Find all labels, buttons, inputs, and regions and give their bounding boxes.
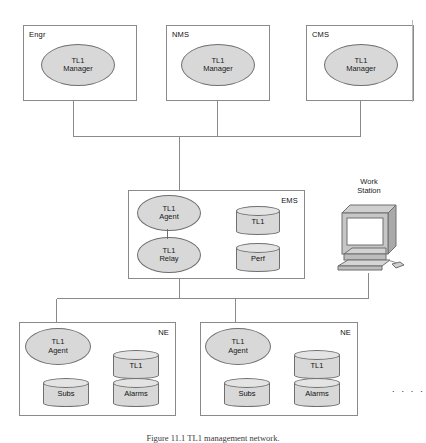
datastore-tl1-ne-right[interactable]: TL1	[294, 350, 340, 379]
node-label-line2: Manager	[346, 65, 376, 73]
datastore-subs-ne-left[interactable]: Subs	[43, 378, 89, 407]
node-label-line2: Agent	[159, 213, 179, 221]
workstation-label-line2: Station	[357, 186, 380, 195]
ne-box-title: NE	[340, 328, 351, 337]
cylinder-top	[236, 206, 280, 216]
cylinder-top	[294, 378, 340, 388]
node-tl1-agent-ems[interactable]: TL1 Agent	[137, 195, 201, 231]
datastore-tl1-ne-left[interactable]: TL1	[113, 350, 159, 379]
node-label-line2: Manager	[63, 65, 93, 73]
datastore-tl1-ems[interactable]: TL1	[236, 206, 280, 235]
workstation-label: Work Station	[336, 177, 402, 196]
page-edge-artifact	[412, 20, 413, 102]
manager-box-title: Engr	[29, 30, 46, 39]
cylinder-top	[294, 350, 340, 360]
datastore-label: TL1	[113, 361, 159, 370]
node-tl1-agent-ne-right[interactable]: TL1 Agent	[205, 328, 271, 365]
datastore-label: TL1	[294, 361, 340, 370]
workstation-icon[interactable]	[334, 200, 406, 274]
node-label-line2: Manager	[203, 65, 233, 73]
datastore-subs-ne-right[interactable]: Subs	[224, 378, 270, 407]
workstation-label-line1: Work	[360, 177, 377, 186]
node-label-line2: Relay	[159, 255, 178, 263]
node-tl1-manager-engr[interactable]: TL1 Manager	[41, 44, 115, 86]
datastore-label: Alarms	[113, 389, 159, 398]
cylinder-top	[224, 378, 270, 388]
ems-box-title: EMS	[281, 196, 298, 205]
datastore-label: Subs	[43, 389, 89, 398]
node-tl1-agent-ne-left[interactable]: TL1 Agent	[25, 328, 91, 365]
datastore-label: Subs	[224, 389, 270, 398]
datastore-alarms-ne-left[interactable]: Alarms	[113, 378, 159, 407]
node-label-line2: Agent	[228, 347, 248, 355]
manager-box-title: CMS	[312, 30, 329, 39]
manager-box-title: NMS	[172, 30, 189, 39]
node-tl1-relay-ems[interactable]: TL1 Relay	[137, 237, 201, 273]
cylinder-top	[236, 243, 280, 253]
node-tl1-manager-nms[interactable]: TL1 Manager	[181, 44, 255, 86]
wire-agent-relay	[167, 229, 169, 239]
datastore-label: Alarms	[294, 389, 340, 398]
ne-box-title: NE	[158, 328, 169, 337]
figure-caption: Figure 11.1 TL1 management network.	[0, 433, 426, 443]
continuation-ellipsis: . . . .	[392, 384, 425, 394]
datastore-alarms-ne-right[interactable]: Alarms	[294, 378, 340, 407]
cylinder-top	[43, 378, 89, 388]
datastore-label: TL1	[236, 217, 280, 226]
cylinder-top	[113, 378, 159, 388]
cylinder-top	[113, 350, 159, 360]
node-tl1-manager-cms[interactable]: TL1 Manager	[324, 44, 398, 86]
datastore-label: Perf	[236, 254, 280, 263]
datastore-perf-ems[interactable]: Perf	[236, 243, 280, 272]
node-label-line2: Agent	[48, 347, 68, 355]
